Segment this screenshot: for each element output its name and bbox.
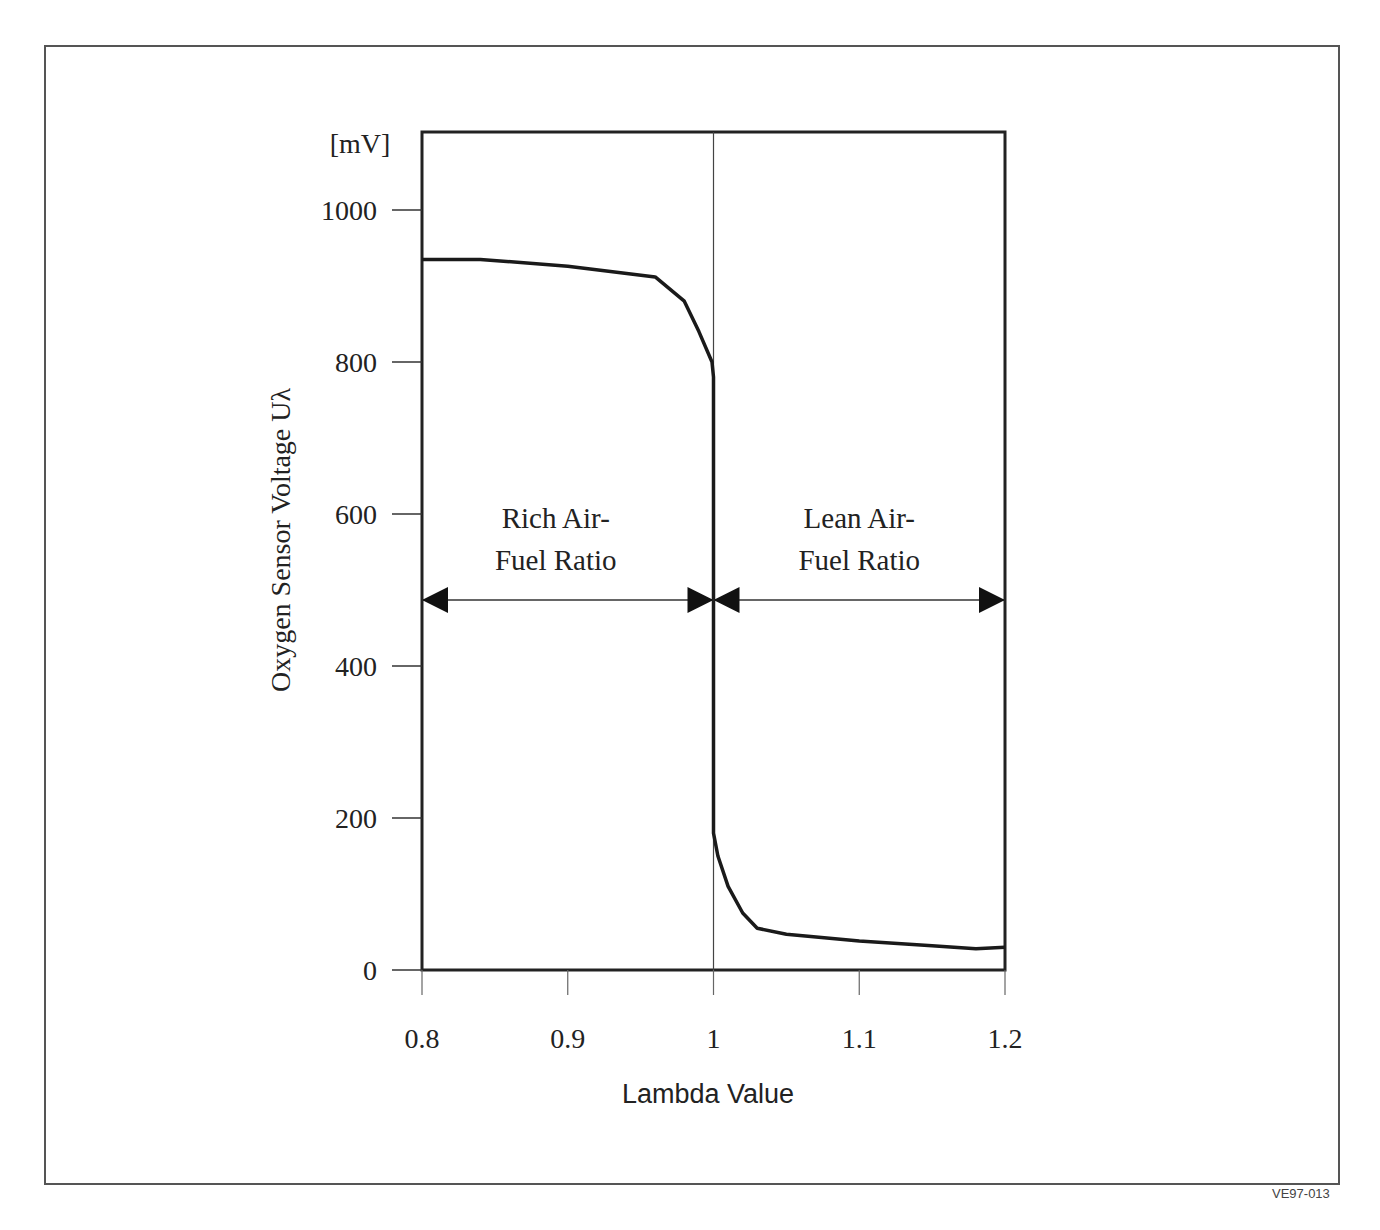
figure-code: VE97-013 (1272, 1186, 1330, 1201)
annotation-line-1: Lean Air- (804, 502, 915, 534)
y-tick-label: 0 (363, 955, 377, 986)
rich-region-annotation: Rich Air-Fuel Ratio (422, 502, 714, 613)
y-tick-label: 400 (335, 651, 377, 682)
arrow-left-icon (714, 587, 740, 613)
chart: 02004006008001000 0.80.911.11.2 Rich Air… (0, 0, 1380, 1230)
x-tick-label: 1.2 (988, 1023, 1023, 1054)
annotation-line-2: Fuel Ratio (798, 544, 920, 576)
annotation-line-2: Fuel Ratio (495, 544, 617, 576)
y-axis-title: Oxygen Sensor Voltage Uλ (265, 387, 296, 692)
arrow-left-icon (422, 587, 448, 613)
x-tick-label: 0.8 (405, 1023, 440, 1054)
y-axis: 02004006008001000 (321, 195, 422, 986)
y-tick-label: 200 (335, 803, 377, 834)
y-tick-label: 600 (335, 499, 377, 530)
arrow-right-icon (688, 587, 714, 613)
x-axis: 0.80.911.11.2 (405, 970, 1023, 1054)
arrow-right-icon (979, 587, 1005, 613)
lean-region-annotation: Lean Air-Fuel Ratio (714, 502, 1006, 613)
y-tick-label: 800 (335, 347, 377, 378)
x-axis-title: Lambda Value (622, 1079, 794, 1109)
y-unit-label: [mV] (330, 128, 391, 159)
x-tick-label: 1 (707, 1023, 721, 1054)
x-tick-label: 0.9 (550, 1023, 585, 1054)
annotation-line-1: Rich Air- (502, 502, 610, 534)
x-tick-label: 1.1 (842, 1023, 877, 1054)
y-tick-label: 1000 (321, 195, 377, 226)
